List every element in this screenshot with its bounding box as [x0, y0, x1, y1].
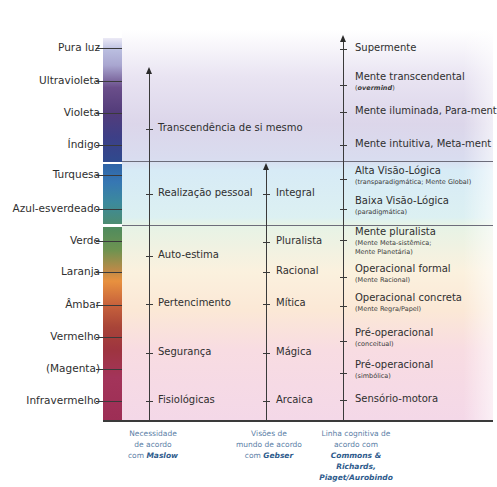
maslow-level-label: Segurança [158, 346, 211, 357]
gebser-tick [263, 401, 270, 402]
altitude-label: Vermelho [50, 330, 100, 342]
cognitive-tick [340, 306, 347, 307]
cognitive-level-sublabel-2: Mente Planetária) [355, 248, 413, 256]
cognitive-level-sublabel: (simbólica) [355, 372, 391, 380]
cognitive-tick [340, 145, 347, 146]
cognitive-level-sublabel: (Mente Racional) [355, 276, 410, 284]
altitude-tick [96, 81, 122, 82]
altitude-tick [96, 48, 122, 49]
maslow-level-label: Fisiológicas [158, 394, 215, 405]
cognitive-tick [340, 49, 347, 50]
baseline [103, 420, 493, 422]
gebser-level-label: Mítica [276, 297, 306, 308]
cognitive-tick [340, 277, 347, 278]
altitude-tick [96, 209, 122, 210]
cognitive-level-label: Pré-operacional [355, 359, 433, 370]
altitude-label: Pura luz [58, 41, 100, 53]
bar-segment-lower [103, 227, 122, 420]
cognitive-level-sublabel: (transparadigmática; Mente Global) [355, 178, 471, 186]
altitude-label: Azul-esverdeado [13, 202, 100, 214]
maslow-axis [149, 70, 150, 420]
maslow-tick [146, 304, 153, 305]
tier-divider-lower [122, 225, 493, 226]
maslow-tick [146, 401, 153, 402]
cognitive-level-label: Supermente [355, 42, 416, 53]
altitude-label: Laranja [61, 265, 100, 277]
altitude-label: Ultravioleta [39, 74, 100, 86]
cognitive-level-sublabel: (conceitual) [355, 340, 394, 348]
maslow-level-label: Realização pessoal [158, 187, 253, 198]
cognitive-level-label: Baixa Visão-Lógica [355, 195, 449, 206]
cognitive-sublabel-italic: overmind [358, 84, 393, 92]
altitude-tick [96, 272, 122, 273]
maslow-tick [146, 256, 153, 257]
altitude-label: Verde [70, 234, 100, 246]
cognitive-level-sublabel: (paradigmática) [355, 208, 407, 216]
bar-segment-upper [103, 38, 122, 162]
cognitive-level-label: Pré-operacional [355, 327, 433, 338]
maslow-level-label: Transcendência de si mesmo [158, 122, 303, 133]
cognitive-level-sublabel: (Mente Regra/Papel) [355, 305, 421, 313]
gebser-level-label: Arcaica [276, 394, 313, 405]
maslow-level-label: Auto-estima [158, 249, 219, 260]
maslow-caption: Necessidade de acordo com Maslow [118, 428, 188, 461]
cognitive-level-label: Operacional formal [355, 263, 451, 274]
altitude-label: Turquesa [53, 168, 100, 180]
maslow-tick [146, 194, 153, 195]
cognitive-level-label: Operacional concreta [355, 292, 462, 303]
altitude-label: Âmbar [65, 298, 100, 310]
maslow-tick [146, 353, 153, 354]
commons-richards-name: Commons & Richards, [331, 451, 381, 471]
cognitive-level-sublabel: (overmind) [355, 84, 395, 92]
maslow-level-label: Pertencimento [158, 297, 231, 308]
gebser-tick [263, 242, 270, 243]
altitude-tick [96, 113, 122, 114]
gebser-tick [263, 194, 270, 195]
gebser-name: Gebser [263, 451, 293, 460]
gebser-axis [266, 166, 267, 420]
gebser-arrow-icon [263, 163, 269, 170]
cognitive-tick [340, 179, 347, 180]
maslow-arrow-icon [146, 67, 152, 74]
altitude-tick [96, 241, 122, 242]
altitude-tick [96, 145, 122, 146]
cognitive-arrow-icon [340, 35, 346, 42]
cognitive-level-label: Alta Visão-Lógica [355, 165, 441, 176]
cognitive-tick [340, 240, 347, 241]
gebser-tick [263, 304, 270, 305]
gebser-level-label: Mágica [276, 346, 312, 357]
cognitive-level-label: Sensório-motora [355, 393, 438, 404]
cognitive-level-label: Mente intuitiva, Meta-ment [355, 138, 491, 149]
cognitive-caption: Linha cognitiva de acordo com Commons & … [310, 428, 402, 483]
altitude-label: (Magenta) [46, 362, 100, 374]
gebser-tick [263, 353, 270, 354]
cognitive-tick [340, 85, 347, 86]
cognitive-level-label: Mente transcendental [355, 71, 465, 82]
cognitive-tick [340, 400, 347, 401]
cognitive-level-label: Mente pluralista [355, 226, 436, 237]
color-spectrum-bar [103, 38, 122, 420]
cognitive-tick [340, 373, 347, 374]
cognitive-level-label: Mente iluminada, Para-ment [355, 105, 497, 116]
gebser-level-label: Integral [276, 187, 315, 198]
gebser-level-label: Pluralista [276, 235, 322, 246]
cognitive-tick [340, 341, 347, 342]
altitude-tick [96, 337, 122, 338]
cognitive-tick [340, 112, 347, 113]
tier-divider-upper [122, 161, 493, 162]
altitude-tick [96, 369, 122, 370]
maslow-tick [146, 129, 153, 130]
altitude-tick [96, 305, 122, 306]
altitude-tick [96, 401, 122, 402]
gebser-caption: Visões de mundo de acordo com Gebser [232, 428, 306, 461]
bar-segment-middle [103, 164, 122, 224]
piaget-aurobindo-name: Piaget/Aurobindo [319, 473, 393, 482]
altitude-label: Violeta [64, 106, 100, 118]
maslow-name: Maslow [146, 451, 178, 460]
cognitive-axis [343, 38, 344, 420]
altitude-label: Índigo [68, 138, 100, 150]
gebser-tick [263, 272, 270, 273]
altitude-tick [96, 175, 122, 176]
cognitive-tick [340, 209, 347, 210]
gebser-level-label: Racional [276, 265, 319, 276]
